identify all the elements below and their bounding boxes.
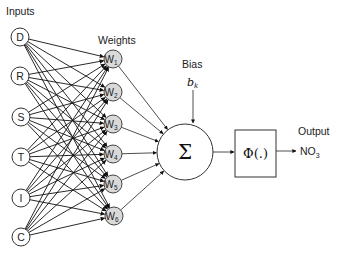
edge-R-W3 bbox=[28, 80, 105, 120]
weight-node-w1: W1 bbox=[104, 50, 122, 68]
edge-S-W3 bbox=[30, 118, 104, 124]
activation-symbol: Φ(.) bbox=[243, 146, 268, 161]
weight-node-w4: W4 bbox=[104, 145, 122, 163]
edge-W5-sum bbox=[121, 164, 159, 181]
edge-W1-sum bbox=[119, 66, 168, 129]
input-label: T bbox=[18, 151, 25, 163]
input-node-t: T bbox=[12, 148, 30, 166]
bias-symbol: bk bbox=[187, 76, 198, 90]
input-label: C bbox=[17, 231, 25, 243]
edge-I-W2 bbox=[27, 99, 107, 191]
weights-heading: Weights bbox=[98, 34, 136, 46]
edge-I-W3 bbox=[28, 130, 106, 192]
input-label: R bbox=[16, 70, 24, 82]
input-node-s: S bbox=[12, 108, 30, 126]
edge-S-W6 bbox=[27, 124, 107, 210]
edge-W3-sum bbox=[121, 127, 158, 141]
weight-node-w2: W2 bbox=[104, 83, 122, 101]
sum-symbol: Σ bbox=[178, 140, 192, 164]
edge-T-W4 bbox=[30, 154, 104, 156]
edge-D-W4 bbox=[26, 44, 107, 147]
weight-nodes: W1W2W3W4W5W6 bbox=[104, 50, 123, 225]
input-node-c: C bbox=[12, 228, 30, 246]
input-label: D bbox=[16, 31, 24, 43]
edge-I-W5 bbox=[30, 185, 104, 196]
input-node-d: D bbox=[11, 28, 29, 46]
output-variable: NO3 bbox=[300, 145, 320, 159]
input-nodes: DRSTIC bbox=[11, 28, 30, 246]
weight-node-w6: W6 bbox=[105, 207, 123, 225]
inputs-heading: Inputs bbox=[6, 5, 35, 17]
neural-network-diagram: Inputs Weights Bias bk Output NO3 Σ Φ(.)… bbox=[0, 0, 346, 258]
edge-D-W1 bbox=[29, 39, 104, 57]
summation-node: Σ bbox=[157, 124, 213, 180]
weight-node-w3: W3 bbox=[104, 115, 122, 133]
input-label: I bbox=[20, 192, 23, 204]
edge-C-W6 bbox=[30, 218, 105, 235]
edge-C-W2 bbox=[26, 100, 108, 229]
output-heading: Output bbox=[298, 125, 330, 137]
weight-node-w5: W5 bbox=[104, 175, 122, 193]
edge-W6-sum bbox=[121, 171, 164, 210]
input-to-weight-connections bbox=[24, 39, 109, 235]
edge-T-W1 bbox=[27, 66, 106, 151]
input-node-i: I bbox=[12, 189, 30, 207]
input-label: S bbox=[17, 111, 24, 123]
activation-function-box: Φ(.) bbox=[235, 130, 276, 177]
edge-W4-sum bbox=[122, 153, 157, 154]
edge-T-W5 bbox=[30, 160, 104, 182]
bias-heading: Bias bbox=[182, 58, 202, 70]
input-node-r: R bbox=[11, 67, 29, 85]
